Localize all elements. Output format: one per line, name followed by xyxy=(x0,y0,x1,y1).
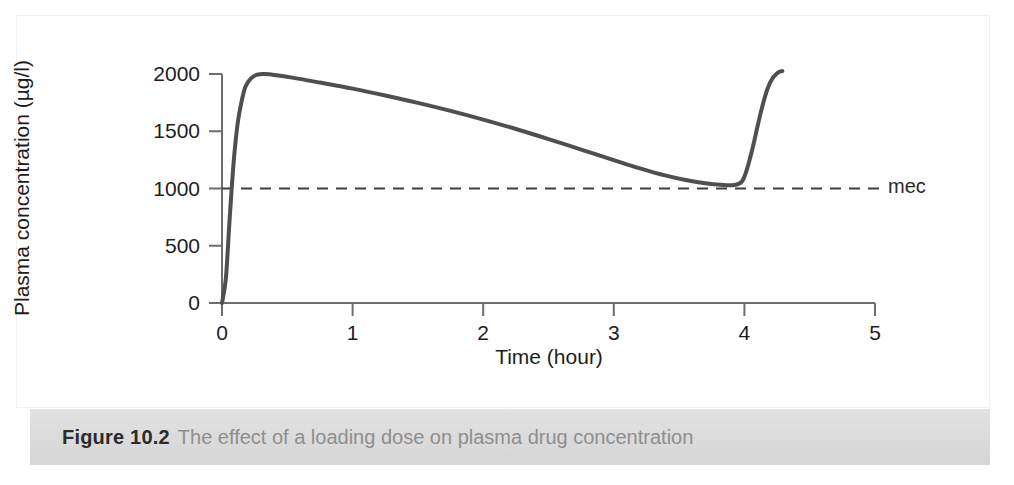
x-tick-label: 0 xyxy=(216,321,228,345)
x-axis-title: Time (hour) xyxy=(495,345,603,369)
x-tick-label: 4 xyxy=(739,321,751,345)
y-axis-title: Plasma concentration (µg/l) xyxy=(10,38,34,338)
x-axis-ticks xyxy=(222,303,875,316)
x-tick-label: 2 xyxy=(477,321,489,345)
x-tick-label: 3 xyxy=(608,321,620,345)
figure-container: 0500100015002000 012345 Plasma concentra… xyxy=(0,0,1014,485)
y-axis-ticks xyxy=(209,74,222,303)
figure-caption-number: Figure 10.2 xyxy=(62,426,170,448)
x-tick-label: 5 xyxy=(869,321,881,345)
figure-caption-band: Figure 10.2The effect of a loading dose … xyxy=(30,409,990,465)
concentration-curve xyxy=(222,71,782,303)
figure-caption-description: The effect of a loading dose on plasma d… xyxy=(178,426,694,448)
concentration-line xyxy=(222,71,782,303)
figure-caption: Figure 10.2The effect of a loading dose … xyxy=(62,426,693,449)
x-tick-label: 1 xyxy=(347,321,359,345)
plot-area: 0500100015002000 012345 Plasma concentra… xyxy=(0,0,1014,410)
mec-annotation-label: mec xyxy=(888,175,926,198)
